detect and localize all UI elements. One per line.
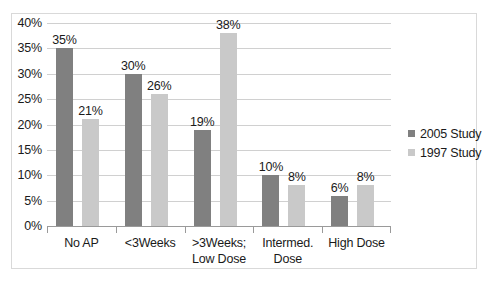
category-label-line: No AP (47, 235, 116, 251)
plot-area: 0%5%10%15%20%25%30%35%40%35%21%30%26%19%… (47, 23, 391, 226)
category-tick (116, 226, 117, 233)
bar-chart-figure: 0%5%10%15%20%25%30%35%40%35%21%30%26%19%… (11, 13, 477, 269)
bar-value-label: 8% (288, 170, 306, 184)
bar-value-label: 6% (331, 181, 349, 195)
bar: 30% (125, 74, 142, 226)
bar: 8% (357, 185, 374, 226)
bar-group: 10%8% (253, 23, 322, 226)
y-axis-tick-label: 35% (18, 41, 42, 55)
category-label-line: Dose (253, 251, 322, 267)
y-axis-tick-label: 25% (18, 92, 42, 106)
bar-value-label: 26% (147, 79, 171, 93)
bar: 38% (220, 33, 237, 226)
category-label-line: Low Dose (185, 251, 254, 267)
category-tick (185, 226, 186, 233)
category-tick (47, 226, 48, 233)
legend-label: 1997 Study (420, 146, 481, 160)
category-tick (322, 226, 323, 233)
y-axis-tick-label: 0% (24, 219, 42, 233)
legend-label: 2005 Study (420, 127, 481, 141)
bar: 10% (262, 175, 279, 226)
category-label: >3Weeks;Low Dose (185, 235, 254, 267)
bar: 6% (331, 196, 348, 226)
bar: 21% (82, 119, 99, 226)
category-tick (390, 226, 391, 233)
y-axis-tick-label: 10% (18, 168, 42, 182)
bar-value-label: 21% (78, 104, 102, 118)
y-axis-tick-label: 20% (18, 118, 42, 132)
category-label: <3Weeks (116, 235, 185, 251)
chart-legend: 2005 Study1997 Study (408, 124, 478, 162)
bar-value-label: 30% (121, 59, 145, 73)
bar-value-label: 35% (52, 33, 76, 47)
bar-value-label: 19% (190, 115, 214, 129)
y-axis-tick-label: 30% (18, 67, 42, 81)
y-axis-tick-label: 40% (18, 16, 42, 30)
bar-group: 35%21% (47, 23, 116, 226)
bar-value-label: 38% (216, 18, 240, 32)
category-tick-row (47, 226, 391, 233)
bar-group: 30%26% (116, 23, 185, 226)
category-tick (253, 226, 254, 233)
bar: 19% (194, 130, 211, 226)
bar: 8% (288, 185, 305, 226)
category-label-line: High Dose (322, 235, 391, 251)
category-label: High Dose (322, 235, 391, 251)
legend-swatch-icon (408, 130, 415, 137)
legend-swatch-icon (408, 149, 415, 156)
bar-group: 6%8% (322, 23, 391, 226)
category-axis: No AP<3Weeks>3Weeks;Low DoseIntermed.Dos… (47, 235, 391, 271)
legend-item[interactable]: 2005 Study (408, 124, 478, 143)
category-label-line: >3Weeks; (185, 235, 254, 251)
bar-value-label: 8% (357, 170, 375, 184)
y-axis-tick-label: 5% (24, 194, 42, 208)
category-label: No AP (47, 235, 116, 251)
y-axis-tick-label: 15% (18, 143, 42, 157)
bar: 26% (151, 94, 168, 226)
legend-item[interactable]: 1997 Study (408, 143, 478, 162)
category-label-line: Intermed. (253, 235, 322, 251)
category-label-line: <3Weeks (116, 235, 185, 251)
bar: 35% (56, 48, 73, 226)
bar-group: 19%38% (185, 23, 254, 226)
bar-value-label: 10% (259, 160, 283, 174)
category-label: Intermed.Dose (253, 235, 322, 267)
